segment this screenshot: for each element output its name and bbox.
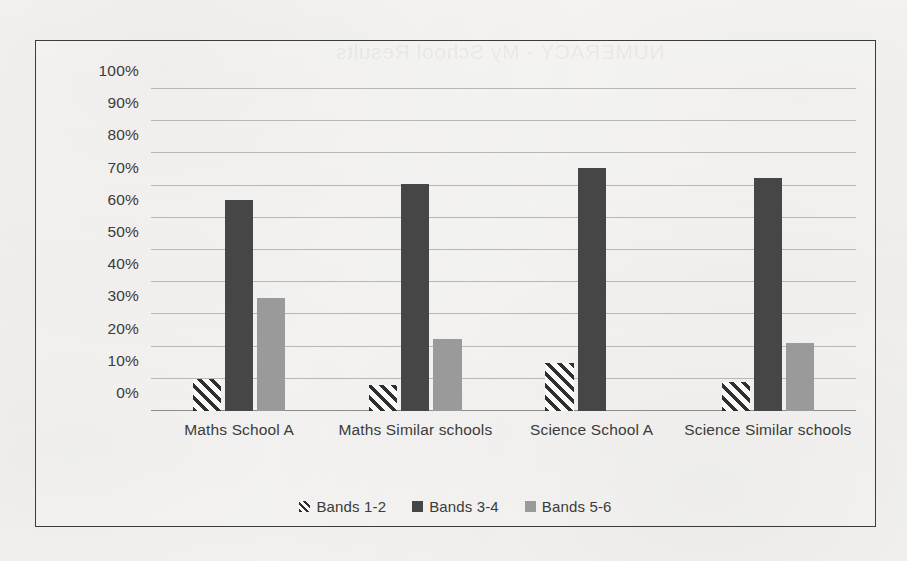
y-axis-tick-label: 50% xyxy=(107,223,139,241)
y-axis-tick-label: 20% xyxy=(107,319,139,337)
legend-label: Bands 1-2 xyxy=(316,498,386,515)
y-axis-tick-label: 100% xyxy=(99,62,139,80)
x-axis-category-labels: Maths School AMaths Similar schoolsScien… xyxy=(151,419,856,481)
bar-bands12 xyxy=(369,385,397,411)
bars-layer xyxy=(151,89,856,411)
bar-group xyxy=(327,89,503,411)
bar-bands34 xyxy=(225,200,253,411)
legend-swatch-icon xyxy=(525,501,536,512)
y-axis-tick-label: 70% xyxy=(107,158,139,176)
bar-group xyxy=(151,89,327,411)
bar-bands56 xyxy=(433,339,461,411)
y-axis-tick-label: 10% xyxy=(107,351,139,369)
bar-group xyxy=(680,89,856,411)
bar-bands34 xyxy=(578,168,606,411)
legend-swatch-icon xyxy=(299,501,310,512)
scanned-page: NUMERACY - My School Results 0%10%20%30%… xyxy=(0,0,907,561)
x-axis-category-label: Maths School A xyxy=(151,419,327,440)
legend-item[interactable]: Bands 1-2 xyxy=(299,498,386,515)
legend-swatch-icon xyxy=(412,501,423,512)
legend-item[interactable]: Bands 3-4 xyxy=(412,498,499,515)
legend-label: Bands 3-4 xyxy=(429,498,499,515)
x-axis-category-label: Science School A xyxy=(504,419,680,440)
bar-bands12 xyxy=(545,363,573,411)
x-axis-category-label: Science Similar schools xyxy=(680,419,856,440)
x-axis-category-label: Maths Similar schools xyxy=(327,419,503,440)
y-axis-tick-label: 80% xyxy=(107,126,139,144)
y-axis-tick-label: 60% xyxy=(107,190,139,208)
y-axis-tick-label: 0% xyxy=(116,384,139,402)
chart-border: 0%10%20%30%40%50%60%70%80%90%100% Maths … xyxy=(35,40,876,527)
bar-bands56 xyxy=(257,298,285,411)
legend-item[interactable]: Bands 5-6 xyxy=(525,498,612,515)
bar-bands12 xyxy=(193,379,221,411)
bar-bands12 xyxy=(722,382,750,411)
y-axis-tick-label: 40% xyxy=(107,255,139,273)
legend-label: Bands 5-6 xyxy=(542,498,612,515)
chart-legend: Bands 1-2Bands 3-4Bands 5-6 xyxy=(36,498,875,515)
bar-bands34 xyxy=(401,184,429,411)
plot-area: 0%10%20%30%40%50%60%70%80%90%100% xyxy=(151,89,856,411)
bar-bands56 xyxy=(786,343,814,411)
y-axis-tick-label: 90% xyxy=(107,94,139,112)
bar-bands34 xyxy=(754,178,782,411)
y-axis-tick-label: 30% xyxy=(107,287,139,305)
bar-group xyxy=(504,89,680,411)
